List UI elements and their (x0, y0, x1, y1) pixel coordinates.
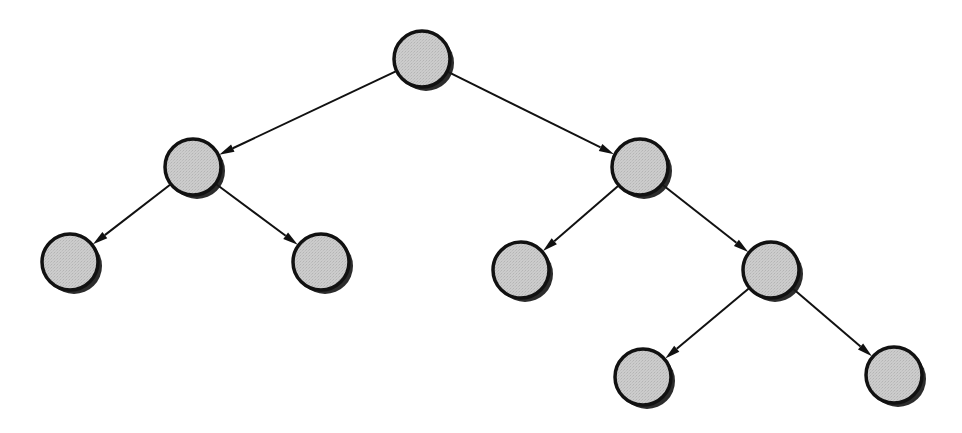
node-circle[interactable] (293, 234, 349, 290)
tree-edge (219, 71, 396, 154)
tree-node-n-rl[interactable] (493, 242, 553, 302)
tree-node-n-ll[interactable] (42, 234, 102, 294)
tree-node-n-lr[interactable] (293, 234, 353, 294)
node-circle[interactable] (42, 234, 98, 290)
edges-layer (93, 71, 872, 358)
tree-edge (216, 184, 297, 244)
tree-canvas (0, 0, 962, 433)
edge-arrowhead-icon (599, 144, 614, 154)
node-circle[interactable] (866, 347, 922, 403)
tree-edge (793, 289, 872, 356)
tree-node-n-l[interactable] (165, 139, 225, 199)
tree-edge (448, 72, 614, 154)
tree-node-n-rrr[interactable] (866, 347, 926, 407)
node-circle[interactable] (394, 31, 450, 87)
tree-node-root[interactable] (394, 31, 454, 91)
binary-tree-diagram (0, 0, 962, 433)
tree-node-n-rr[interactable] (743, 242, 803, 302)
node-circle[interactable] (743, 242, 799, 298)
node-circle[interactable] (493, 242, 549, 298)
tree-edge (665, 289, 749, 359)
edge-arrowhead-icon (219, 145, 234, 155)
node-circle[interactable] (615, 349, 671, 405)
tree-node-n-r[interactable] (612, 139, 672, 199)
tree-edge (93, 185, 170, 245)
tree-edge (663, 185, 748, 252)
node-circle[interactable] (612, 139, 668, 195)
tree-edge (543, 186, 618, 251)
nodes-layer (42, 31, 926, 409)
node-circle[interactable] (165, 139, 221, 195)
